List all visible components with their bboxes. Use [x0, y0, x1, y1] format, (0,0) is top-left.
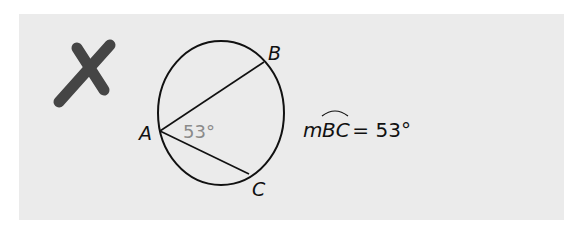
point-a-label: A: [137, 122, 152, 144]
point-b-label: B: [268, 42, 281, 64]
equation-value: = 53°: [346, 118, 411, 142]
arc-symbol-icon: [322, 111, 348, 116]
incorrect-x-icon: [59, 45, 110, 102]
inscribed-angle-label: 53°: [183, 121, 215, 142]
diagram: A B C 53° m BC = 53°: [0, 0, 582, 230]
arc-measure-equation: m BC = 53°: [303, 111, 411, 142]
circle: [158, 41, 284, 185]
point-c-label: C: [252, 178, 266, 200]
equation-prefix: m: [303, 118, 322, 142]
